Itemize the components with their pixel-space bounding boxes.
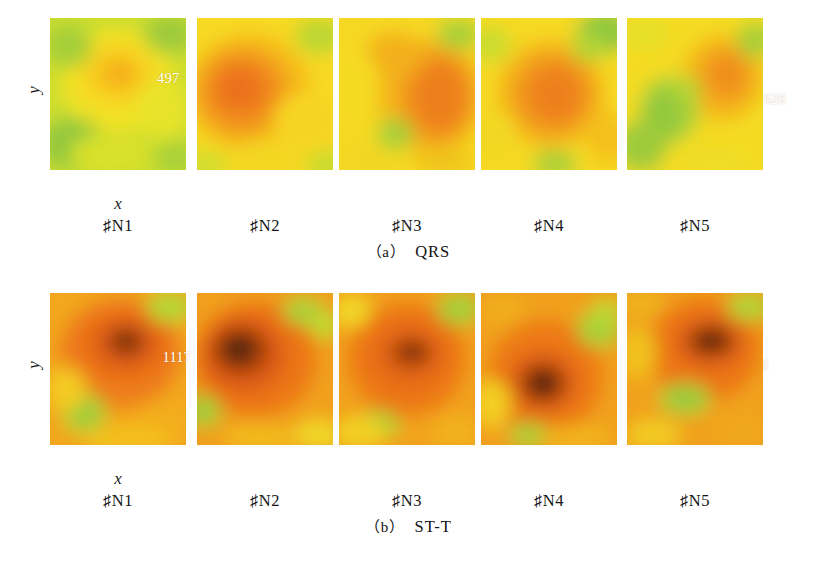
panel-label-stt-n4: ♯N4 [481, 491, 617, 511]
heatmap-image-qrs-n5 [627, 18, 763, 170]
subcaption-qrs-text: QRS [415, 242, 450, 261]
panel-label-qrs-n2: ♯N2 [197, 216, 333, 236]
axis-label-x-stt: x [108, 469, 128, 489]
panel-label-qrs-n4: ♯N4 [481, 216, 617, 236]
heatmap-panel-qrs-n3[interactable]: 628 [339, 18, 475, 170]
heatmap-image-qrs-n2 [197, 18, 333, 170]
subcaption-stt: （b）ST-T [0, 515, 817, 537]
heatmap-value-qrs-n3: 628 [764, 91, 786, 108]
panel-label-qrs-n5: ♯N5 [627, 216, 763, 236]
heatmap-panel-stt-n3[interactable]: 878 [339, 293, 475, 445]
subcaption-stt-text: ST-T [414, 517, 451, 536]
footer-cutoff-text [62, 556, 752, 563]
heatmap-panel-qrs-n2[interactable]: 791 [197, 18, 333, 170]
figure-container: y x [0, 0, 817, 563]
panel-label-stt-n2: ♯N2 [197, 491, 333, 511]
heatmap-panel-stt-n1[interactable]: 1117 [50, 293, 186, 445]
subcaption-qrs: （a）QRS [0, 240, 817, 262]
heatmap-image-qrs-n3 [339, 18, 475, 170]
heatmap-image-stt-n3 [339, 293, 475, 445]
panel-label-qrs-n3: ♯N3 [339, 216, 475, 236]
subcaption-stt-index: （b） [365, 519, 404, 535]
heatmap-panel-qrs-n1[interactable]: 497 [50, 18, 186, 170]
heatmap-image-qrs-n4 [481, 18, 617, 170]
heatmap-panel-qrs-n5[interactable]: 1078 [627, 18, 763, 170]
heatmap-image-qrs-n1 [50, 18, 186, 170]
axis-label-y-qrs: y [24, 78, 44, 102]
panel-label-stt-n1: ♯N1 [50, 491, 186, 511]
panel-label-qrs-n1: ♯N1 [50, 216, 186, 236]
heatmap-image-stt-n4 [481, 293, 617, 445]
heatmap-panel-stt-n5[interactable]: 2109 [627, 293, 763, 445]
heatmap-panel-stt-n4[interactable]: 1020 [481, 293, 617, 445]
heatmap-panel-stt-n2[interactable]: 941 [197, 293, 333, 445]
heatmap-image-stt-n2 [197, 293, 333, 445]
heatmap-image-stt-n5 [627, 293, 763, 445]
axis-label-x-qrs: x [108, 194, 128, 214]
panel-label-stt-n5: ♯N5 [627, 491, 763, 511]
panel-label-stt-n3: ♯N3 [339, 491, 475, 511]
heatmap-panel-qrs-n4[interactable]: 737 [481, 18, 617, 170]
heatmap-image-stt-n1 [50, 293, 186, 445]
axis-label-y-stt: y [24, 353, 44, 377]
subcaption-qrs-index: （a） [367, 244, 405, 260]
